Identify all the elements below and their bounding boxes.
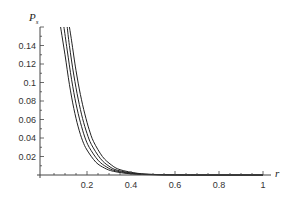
axes xyxy=(37,27,271,178)
x-ticks: 0.20.40.60.81 xyxy=(54,171,266,190)
x-tick-label: 0.2 xyxy=(81,180,94,190)
series-line xyxy=(69,27,263,175)
y-tick-label: 0.14 xyxy=(18,41,36,51)
x-tick-label: 1 xyxy=(260,180,265,190)
y-tick-label: 0.02 xyxy=(18,152,36,162)
series-line xyxy=(67,27,263,175)
y-axis-label: Ps xyxy=(28,11,39,26)
series-line xyxy=(64,27,263,175)
curves xyxy=(61,27,263,175)
x-tick-label: 0.6 xyxy=(169,180,182,190)
y-tick-label: 0.12 xyxy=(18,59,36,69)
y-tick-label: 0.04 xyxy=(18,133,36,143)
chart-plot: 0.020.040.060.080.10.120.14 0.20.40.60.8… xyxy=(0,0,293,202)
x-tick-label: 0.4 xyxy=(125,180,138,190)
y-tick-label: 0.06 xyxy=(18,115,36,125)
x-tick-label: 0.8 xyxy=(213,180,226,190)
y-tick-label: 0.1 xyxy=(23,78,36,88)
x-axis-label: r xyxy=(275,167,280,179)
y-tick-label: 0.08 xyxy=(18,96,36,106)
series-line xyxy=(61,27,263,175)
